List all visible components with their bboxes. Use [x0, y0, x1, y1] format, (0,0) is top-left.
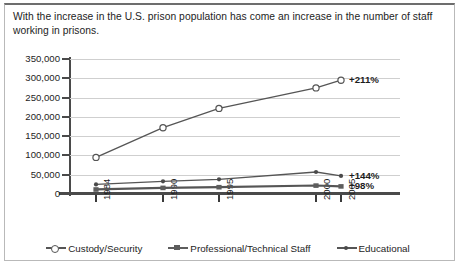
- y-axis-tick: [62, 58, 70, 60]
- filled-dot-marker: [161, 179, 165, 183]
- legend-label: Custody/Security: [68, 243, 142, 254]
- series-professional-technical-staff: [93, 183, 343, 192]
- y-axis-tick-label: 0: [0, 188, 60, 199]
- open-circle-marker: [93, 154, 99, 160]
- series-custody-security: [93, 77, 344, 160]
- legend-item[interactable]: Educational: [337, 243, 410, 254]
- y-axis-tick-label: 200,000: [0, 111, 60, 122]
- figure-caption: With the increase in the U.S. prison pop…: [13, 10, 443, 38]
- y-axis-tick-label: 100,000: [0, 149, 60, 160]
- filled-dot-marker: [337, 243, 357, 253]
- x-axis-tick: [162, 195, 164, 202]
- legend-label: Professional/Technical Staff: [190, 243, 310, 254]
- x-axis-tick: [340, 195, 342, 202]
- y-axis-tick-label: 300,000: [0, 72, 60, 83]
- series-line: [96, 80, 341, 157]
- y-axis-tick: [62, 174, 70, 176]
- open-circle-marker: [46, 243, 66, 253]
- series-change-annotation: +211%: [349, 74, 379, 85]
- filled-square-marker: [168, 243, 188, 253]
- chart-figure: With the increase in the U.S. prison pop…: [0, 0, 460, 267]
- filled-dot-marker: [314, 170, 318, 174]
- legend-item[interactable]: Custody/Security: [46, 243, 142, 254]
- x-axis-tick: [218, 195, 220, 202]
- y-axis-tick: [62, 77, 70, 79]
- y-axis-tick: [62, 135, 70, 137]
- gridline: [70, 194, 400, 195]
- filled-dot-marker: [339, 174, 343, 178]
- y-axis-tick: [62, 116, 70, 118]
- series-change-annotation: +98%: [349, 180, 374, 191]
- filled-square-marker: [160, 186, 165, 191]
- open-circle-marker: [216, 105, 222, 111]
- series-change-annotation: +144%: [349, 170, 379, 181]
- legend-label: Educational: [359, 243, 410, 254]
- y-axis-tick: [62, 154, 70, 156]
- x-axis-tick: [95, 195, 97, 202]
- filled-square-marker: [338, 184, 343, 189]
- filled-square-marker: [313, 183, 318, 188]
- y-axis-tick-label: 50,000: [0, 169, 60, 180]
- y-axis-tick-label: 150,000: [0, 130, 60, 141]
- chart-legend: Custody/SecurityProfessional/Technical S…: [13, 240, 443, 256]
- y-axis-tick-label: 350,000: [0, 53, 60, 64]
- filled-square-marker: [93, 187, 98, 192]
- open-circle-marker: [338, 77, 344, 83]
- x-axis-tick: [315, 195, 317, 202]
- open-circle-marker: [313, 85, 319, 91]
- filled-dot-marker: [94, 182, 98, 186]
- filled-dot-marker: [217, 177, 221, 181]
- legend-item[interactable]: Professional/Technical Staff: [168, 243, 310, 254]
- y-axis-tick: [62, 97, 70, 99]
- open-circle-marker: [160, 125, 166, 131]
- y-axis-tick: [62, 193, 70, 195]
- filled-square-marker: [216, 185, 221, 190]
- series-educational: [94, 170, 343, 187]
- y-axis-tick-label: 250,000: [0, 92, 60, 103]
